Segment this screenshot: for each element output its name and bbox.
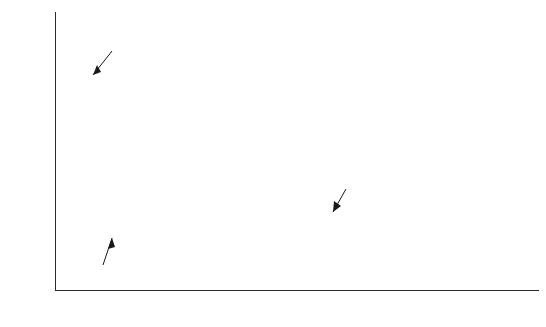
p90-annotation-arrow: [93, 51, 112, 75]
plot-area: [56, 13, 538, 290]
chart-svg: [56, 13, 538, 290]
x-axis-line: [55, 290, 539, 291]
chart-figure: [0, 0, 546, 327]
p10-annotation-arrow: [103, 238, 115, 265]
average-annotation-arrow: [333, 189, 346, 212]
y-axis-ticks: [18, 0, 48, 327]
x-axis-ticks: [56, 292, 538, 327]
